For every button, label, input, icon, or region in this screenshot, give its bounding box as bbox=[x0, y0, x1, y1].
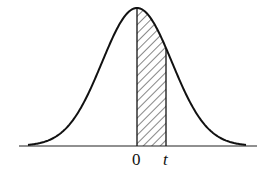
t-label: t bbox=[163, 151, 168, 168]
origin-label: 0 bbox=[132, 151, 141, 168]
shaded-area bbox=[137, 8, 166, 146]
normal-distribution-figure: 0 t bbox=[0, 0, 276, 177]
